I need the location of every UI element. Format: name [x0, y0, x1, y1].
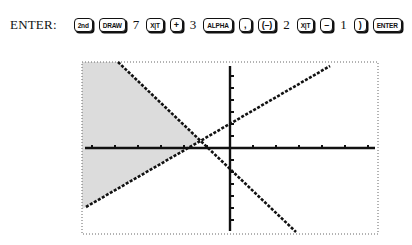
shaded-solution-region: [82, 62, 201, 209]
calculator-graph-screen: [0, 0, 412, 245]
